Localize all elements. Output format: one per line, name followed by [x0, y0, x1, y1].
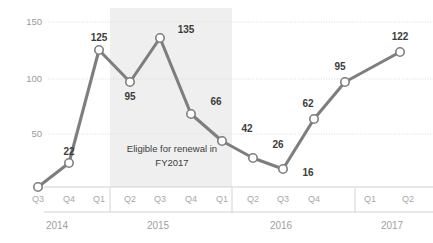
data-point-label: 95 — [334, 61, 346, 72]
data-point-marker[interactable] — [95, 46, 103, 54]
xtick-label: Q2 — [402, 194, 414, 204]
data-point-label: 16 — [302, 167, 314, 178]
chart-canvas: 150 100 50 0 22 125 95 135 66 42 26 16 6… — [0, 0, 433, 243]
data-point-marker[interactable] — [310, 115, 318, 123]
data-point-marker[interactable] — [341, 78, 349, 86]
data-point-marker[interactable] — [279, 165, 287, 173]
data-point-marker[interactable] — [156, 34, 164, 42]
xtick-label: Q4 — [185, 194, 197, 204]
data-point-marker[interactable] — [126, 78, 134, 86]
data-point-label: 95 — [124, 91, 136, 102]
xtick-label: Q2 — [124, 194, 136, 204]
data-point-label: 122 — [392, 31, 409, 42]
xtick-label: Q1 — [216, 194, 228, 204]
data-point-marker[interactable] — [187, 110, 195, 118]
data-point-label: 42 — [241, 123, 253, 134]
ytick-label-150: 150 — [26, 16, 42, 27]
ytick-label-50: 50 — [31, 128, 42, 139]
data-point-marker[interactable] — [34, 183, 42, 191]
xtick-label: Q2 — [247, 194, 259, 204]
xtick-label: Q4 — [308, 194, 320, 204]
year-group-label-2015: 2015 — [147, 220, 170, 231]
data-point-marker[interactable] — [249, 154, 257, 162]
year-group-label-2017: 2017 — [381, 220, 404, 231]
data-point-label: 26 — [272, 139, 284, 150]
ytick-label-100: 100 — [26, 73, 42, 84]
line-chart: 150 100 50 0 22 125 95 135 66 42 26 16 6… — [0, 0, 433, 243]
year-group-label-2016: 2016 — [270, 220, 293, 231]
year-group-label-2014: 2014 — [46, 220, 69, 231]
data-point-marker[interactable] — [218, 137, 226, 145]
data-point-marker[interactable] — [65, 159, 73, 167]
annotation-line-2: FY2017 — [155, 157, 188, 168]
xtick-label: Q1 — [364, 194, 376, 204]
xtick-label: Q3 — [32, 194, 44, 204]
xtick-label: Q3 — [277, 194, 289, 204]
annotation-line-1: Eligible for renewal in — [127, 143, 217, 154]
data-point-label: 62 — [302, 98, 314, 109]
xtick-label: Q3 — [154, 194, 166, 204]
data-point-label: 22 — [63, 146, 75, 157]
xtick-label: Q1 — [93, 194, 105, 204]
data-point-label: 125 — [91, 32, 108, 43]
xtick-label: Q4 — [63, 194, 75, 204]
data-point-label: 135 — [178, 24, 195, 35]
data-point-marker[interactable] — [396, 48, 404, 56]
data-point-label: 66 — [210, 96, 222, 107]
